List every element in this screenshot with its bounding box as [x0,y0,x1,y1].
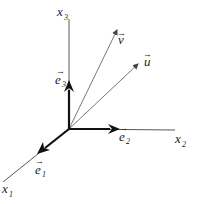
basis-e2 [69,124,120,134]
label-u: → u [143,49,152,69]
svg-text:2: 2 [182,140,186,149]
label-e1: → e 1 [35,156,46,179]
svg-text:u: u [144,54,151,69]
svg-text:3: 3 [61,80,66,89]
label-x1: x 1 [1,181,13,199]
label-e3: → e 3 [55,66,66,89]
svg-text:e: e [35,162,41,177]
label-x3: x 3 [56,4,68,22]
svg-text:e: e [55,72,61,87]
arrowhead-icon [37,142,50,154]
svg-text:3: 3 [63,13,68,22]
label-e2: → e 2 [119,123,130,146]
label-v: → v [117,28,126,47]
svg-text:x: x [174,131,181,146]
svg-text:v: v [118,32,124,47]
svg-text:1: 1 [9,190,13,199]
coordinate-diagram: x 3 x 2 x 1 → e 3 → e 2 → e 1 → v → u [0,0,197,204]
svg-text:x: x [1,181,8,196]
svg-text:e: e [119,129,125,144]
svg-text:2: 2 [126,137,130,146]
label-x2: x 2 [174,131,186,149]
svg-text:1: 1 [42,170,46,179]
svg-text:x: x [56,4,63,19]
basis-e1 [37,129,69,154]
vector-v [69,30,117,129]
vector-u [69,64,138,129]
